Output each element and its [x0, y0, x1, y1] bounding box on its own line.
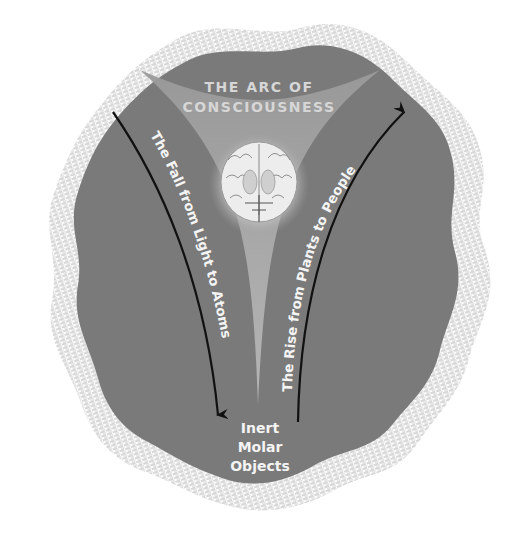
diagram-title-line2: CONSCIOUSNESS — [182, 99, 335, 115]
svg-text:Objects: Objects — [230, 458, 290, 474]
svg-text:Molar: Molar — [238, 439, 283, 455]
diagram-title-line1: THE ARC OF — [205, 79, 314, 95]
arc-of-consciousness-diagram: THE ARC OF CONSCIOUSNESS The Fall from L… — [0, 0, 512, 542]
brain-icon — [221, 142, 297, 222]
svg-text:Inert: Inert — [241, 420, 280, 436]
